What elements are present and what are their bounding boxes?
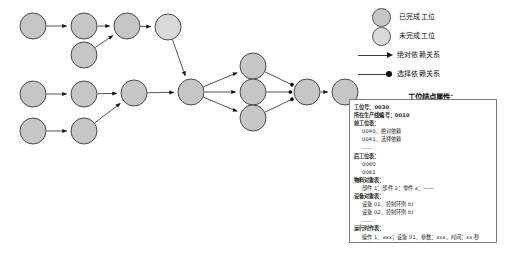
edge-layer (47, 26, 328, 131)
panel-line: 部件 1：部件 2：零件 a：—— (354, 184, 492, 192)
station-node[interactable] (155, 14, 181, 40)
panel-line: 操作 2、xxx；设备 02、参数：xxx、时间：yy 秒 (354, 241, 492, 243)
legend-item-done: 已完成工位 (372, 8, 504, 27)
absolute-dependency-arrow-icon (372, 47, 389, 64)
legend-item-todo: 未完成工位 (372, 27, 504, 46)
panel-line: 0061 (354, 168, 492, 176)
panel-line-list: 工位号：0030所在生产线编号：0010前工位表：0040、绝对依赖0041、选… (354, 103, 492, 243)
legend-item-label: 未完成工位 (399, 33, 435, 40)
panel-line: 0041、选择依赖 (354, 135, 492, 143)
legend-item-abs: 绝对依赖关系 (372, 46, 504, 65)
panel-line: …… (354, 143, 492, 151)
panel-line: 操作 1、xxx；设备 01、参数：xxx、时间：xx 秒 (354, 233, 492, 241)
dependency-edge (203, 97, 237, 111)
node-layer (20, 13, 358, 144)
dependency-edge (95, 103, 121, 122)
panel-line: 前工位表： (354, 119, 492, 127)
panel-line: 工位号：0030 (354, 103, 492, 111)
dependency-edge (203, 73, 237, 87)
legend-item-label: 已完成工位 (399, 14, 435, 21)
selective-dependency-arrow-icon (372, 66, 389, 83)
panel-line: 0060 (354, 160, 492, 168)
station-node[interactable] (121, 80, 147, 106)
legend-item-label: 绝对依赖关系 (397, 52, 440, 59)
station-node[interactable] (294, 79, 320, 105)
station-node[interactable] (20, 13, 46, 39)
station-node[interactable] (240, 53, 266, 79)
station-node-attributes-panel: 工位号：0030所在生产线编号：0010前工位表：0040、绝对依赖0041、选… (349, 99, 497, 243)
station-node[interactable] (114, 13, 140, 39)
panel-line: 0040、绝对依赖 (354, 127, 492, 135)
diagram-canvas: 已完成工位未完成工位绝对依赖关系选择依赖关系 工位结点属性： 工位号：0030所… (0, 0, 510, 255)
station-node[interactable] (20, 81, 46, 107)
dependency-edge (95, 36, 113, 48)
dependency-edge (265, 99, 292, 112)
panel-line: 物料对象表： (354, 176, 492, 184)
completed-station-icon (372, 8, 391, 27)
panel-line: 设备对象表： (354, 192, 492, 200)
station-node[interactable] (71, 81, 97, 107)
station-node[interactable] (240, 105, 266, 131)
dependency-edge (265, 72, 292, 85)
station-node[interactable] (240, 79, 266, 105)
station-node[interactable] (71, 118, 97, 144)
dependency-edge (173, 40, 186, 76)
legend-item-label: 选择依赖关系 (397, 71, 440, 78)
panel-line: 所在生产线编号：0010 (354, 111, 492, 119)
legend: 已完成工位未完成工位绝对依赖关系选择依赖关系 (372, 8, 504, 84)
station-node[interactable] (71, 42, 97, 68)
panel-line: …… (354, 216, 492, 224)
panel-line: 设备 01、控制环例 b) (354, 200, 492, 208)
station-node[interactable] (71, 13, 97, 39)
panel-line: 运行时作表： (354, 224, 492, 232)
panel-line: 后工位表： (354, 152, 492, 160)
panel-line: 设备 02、控制环例 b) (354, 208, 492, 216)
legend-item-sel: 选择依赖关系 (372, 65, 504, 84)
station-node[interactable] (178, 79, 204, 105)
station-node[interactable] (20, 118, 46, 144)
incomplete-station-icon (372, 27, 391, 46)
